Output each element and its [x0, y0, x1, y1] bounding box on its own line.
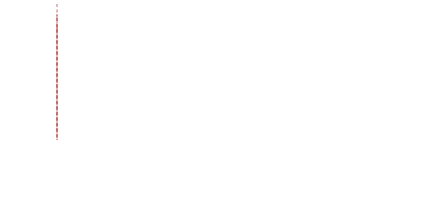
conic-sections-figure	[0, 0, 432, 216]
